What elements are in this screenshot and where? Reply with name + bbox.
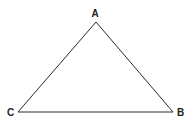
- edge-c-a: [18, 22, 96, 112]
- vertex-label-a: A: [91, 8, 98, 19]
- edge-a-b: [96, 22, 173, 112]
- vertex-label-b: B: [177, 107, 184, 118]
- triangle-diagram: A B C: [0, 0, 196, 128]
- triangle-svg: A B C: [0, 0, 196, 128]
- vertex-label-c: C: [7, 107, 14, 118]
